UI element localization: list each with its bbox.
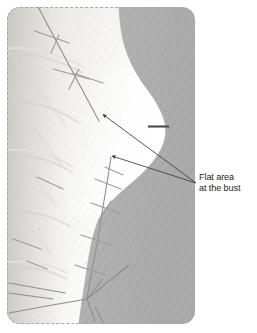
photograph <box>7 7 195 324</box>
figure-page: Flat area at the bust <box>0 0 257 333</box>
caption-line-1: Flat area <box>199 172 257 183</box>
annotation-caption: Flat area at the bust <box>199 172 257 195</box>
photograph-canvas <box>7 7 195 324</box>
caption-line-2: at the bust <box>199 183 257 194</box>
